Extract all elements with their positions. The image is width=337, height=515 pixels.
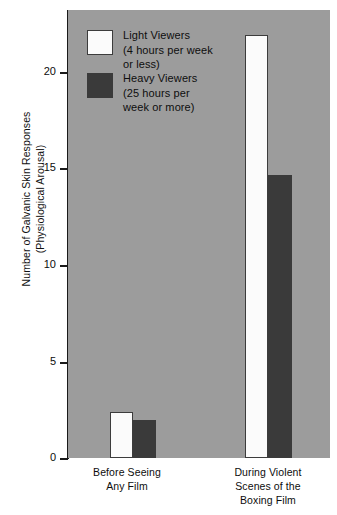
bar-chart: Number of Galvanic Skin Responses (Physi… bbox=[0, 0, 337, 515]
chart-legend: Light Viewers (4 hours per week or less)… bbox=[87, 29, 262, 115]
tick-mark-15 bbox=[60, 168, 68, 170]
plot-area: Light Viewers (4 hours per week or less)… bbox=[68, 10, 330, 458]
tick-label-15: 15 bbox=[26, 162, 56, 173]
tick-mark-5 bbox=[60, 362, 68, 364]
bar-group0-heavy bbox=[133, 420, 156, 458]
legend-item-heavy: Heavy Viewers (25 hours per week or more… bbox=[87, 72, 262, 102]
x-axis-label-during-violent-scenes: During Violent Scenes of the Boxing Film bbox=[207, 465, 329, 507]
bar-group0-light bbox=[110, 412, 133, 458]
bar-group1-light bbox=[245, 35, 268, 458]
tick-mark-0 bbox=[60, 458, 68, 460]
tick-mark-10 bbox=[60, 265, 68, 267]
legend-swatch-light-icon bbox=[87, 30, 113, 55]
tick-label-0: 0 bbox=[26, 452, 56, 463]
tick-mark-20 bbox=[60, 72, 68, 74]
legend-label-heavy: Heavy Viewers (25 hours per week or more… bbox=[123, 71, 197, 115]
y-axis-title: Number of Galvanic Skin Responses (Physi… bbox=[20, 69, 54, 329]
legend-swatch-heavy-icon bbox=[87, 73, 113, 98]
bar-group1-heavy bbox=[268, 175, 292, 458]
legend-label-light: Light Viewers (4 hours per week or less) bbox=[123, 28, 213, 72]
legend-item-light: Light Viewers (4 hours per week or less) bbox=[87, 29, 262, 59]
tick-label-20: 20 bbox=[26, 66, 56, 77]
tick-label-10: 10 bbox=[26, 259, 56, 270]
x-axis-label-before-seeing-any-film: Before Seeing Any Film bbox=[72, 465, 182, 493]
tick-label-5: 5 bbox=[26, 356, 56, 367]
